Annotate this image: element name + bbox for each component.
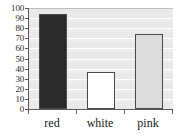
y-axis-tick-mark [25,69,29,70]
plot-area [28,8,173,110]
x-axis-tick-marks [28,109,173,114]
bar [87,72,115,109]
x-axis-tick-label: pink [137,116,158,130]
y-axis-tick-mark [25,79,29,80]
bar [39,14,67,109]
y-axis-tick-mark [25,8,29,9]
y-axis-tick-label: 80 [0,24,24,33]
y-axis-tick-label: 100 [0,4,24,13]
x-axis-tick-mark [76,109,77,114]
y-axis-tick-label: 20 [0,84,24,93]
y-axis-tick-label: 40 [0,64,24,73]
x-axis-tick-labels: redwhitepink [28,116,172,132]
y-axis-tick-label: 70 [0,34,24,43]
x-axis-tick-mark [28,109,29,114]
y-axis-tick-label: 60 [0,44,24,53]
x-axis-tick-mark [172,109,173,114]
y-axis-tick-mark [25,38,29,39]
y-axis-tick-mark [25,28,29,29]
y-axis-tick-label: 50 [0,54,24,63]
bar [135,34,163,109]
x-axis-tick-label: red [44,116,59,130]
y-axis-tick-mark [25,18,29,19]
y-axis-tick-mark [25,48,29,49]
y-axis-tick-mark [25,89,29,90]
y-axis-tick-mark [25,59,29,60]
y-axis-tick-labels: 0102030405060708090100 [0,8,24,109]
bar-chart: 0102030405060708090100 redwhitepink [0,0,183,140]
bar-series [29,8,173,109]
x-axis-tick-label: white [87,116,114,130]
y-axis-tick-label: 30 [0,74,24,83]
x-axis-tick-mark [124,109,125,114]
y-axis-tick-mark [25,99,29,100]
y-axis-tick-label: 0 [0,105,24,114]
y-axis-tick-label: 10 [0,94,24,103]
y-axis-tick-label: 90 [0,14,24,23]
